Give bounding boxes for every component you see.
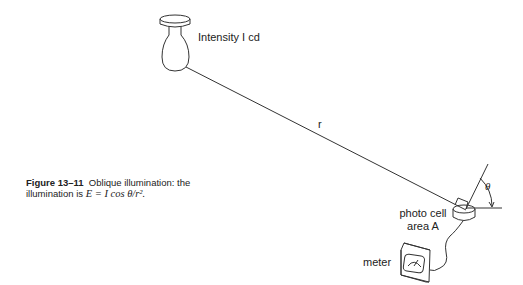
caption-line1: Oblique illumination: the [89,177,190,188]
diagram-drawing [0,0,523,285]
photo-cell-label-line1: photo cell [392,207,454,220]
source-intensity-label: Intensity I cd [198,31,260,44]
caption-formula: E = I cos θ/r². [86,188,145,199]
distance-label: r [318,118,322,131]
figure-number: Figure 13–11 [26,177,84,188]
distance-line [186,67,466,210]
caption-line2: illumination is [26,188,83,199]
figure-caption: Figure 13–11 Oblique illumination: the i… [26,177,226,199]
photo-cell-label-line2: area A [392,220,454,233]
photo-cell-label: photo cell area A [392,207,454,233]
meter-label: meter [363,256,391,269]
meter-icon [401,243,430,282]
diagram-canvas: Intensity I cd r θ photo cell area A met… [0,0,523,285]
angle-label: θ [485,180,490,192]
light-bulb-icon [160,15,190,71]
